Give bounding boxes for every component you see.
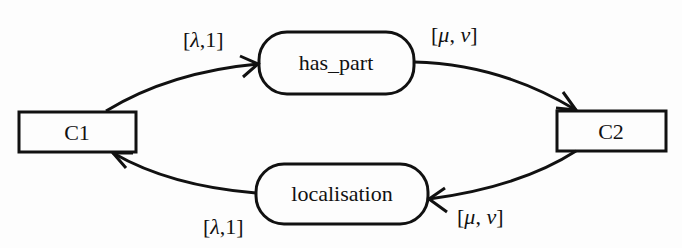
edge-c1-to-has-part xyxy=(106,56,258,111)
edge-label-c1-has-part: [λ,1] xyxy=(183,27,224,52)
edge-label-has-part-c2: [μ, ν] xyxy=(431,22,477,47)
node-c1: C1 xyxy=(19,112,136,152)
node-has-part: has_part xyxy=(259,32,414,94)
diagram-svg: C1 C2 has_part localisation [λ,1] [μ, ν]… xyxy=(0,0,682,248)
node-localisation-label: localisation xyxy=(291,181,392,206)
edge-label-localisation-c1: [λ,1] xyxy=(203,214,244,239)
node-localisation: localisation xyxy=(256,164,428,224)
arrowhead-icon xyxy=(429,188,447,212)
edge-c2-to-localisation xyxy=(429,151,576,212)
node-c2-label: C2 xyxy=(598,119,624,144)
node-has-part-label: has_part xyxy=(299,50,374,75)
edge-label-c2-localisation: [μ, ν] xyxy=(457,204,503,229)
relation-diagram: C1 C2 has_part localisation [λ,1] [μ, ν]… xyxy=(0,0,682,248)
edge-has-part-to-c2 xyxy=(414,62,576,110)
edge-localisation-to-c1 xyxy=(113,153,256,193)
node-c1-label: C1 xyxy=(64,120,90,145)
node-c2: C2 xyxy=(557,111,666,151)
